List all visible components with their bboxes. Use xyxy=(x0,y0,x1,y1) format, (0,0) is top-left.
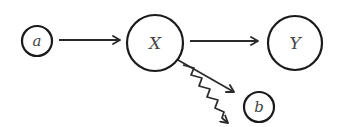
node-b: b xyxy=(244,92,274,122)
node-b-label: b xyxy=(254,98,264,116)
node-y-label: Y xyxy=(289,33,302,53)
node-x-label: X xyxy=(147,33,162,53)
node-x: X xyxy=(127,15,183,71)
node-a-label: a xyxy=(33,32,42,50)
edge-x-wavy xyxy=(183,65,228,123)
node-y: Y xyxy=(268,16,322,70)
causal-diagram: a X Y b xyxy=(0,0,337,127)
node-a: a xyxy=(22,26,52,56)
